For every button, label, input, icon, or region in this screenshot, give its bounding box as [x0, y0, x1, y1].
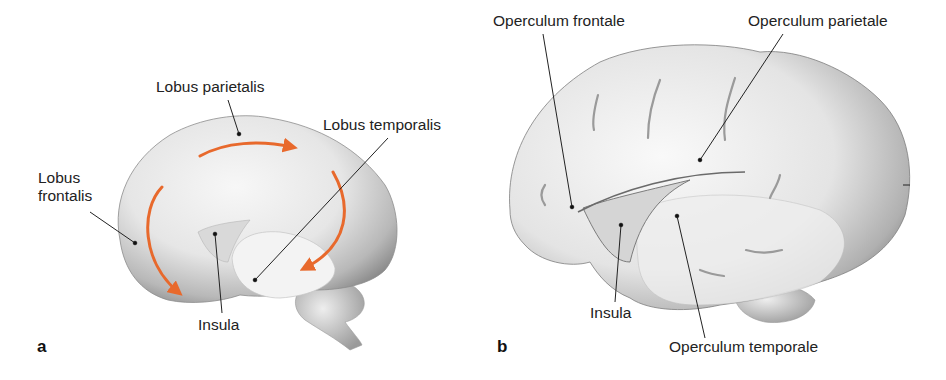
label-operculum-temporale: Operculum temporale — [669, 338, 818, 356]
label-lobus-parietalis: Lobus parietalis — [156, 78, 265, 96]
label-operculum-parietale: Operculum parietale — [748, 12, 888, 30]
label-lobus-temporalis: Lobus temporalis — [323, 116, 441, 134]
label-operculum-frontale: Operculum frontale — [493, 12, 625, 30]
label-insula-a: Insula — [198, 316, 239, 334]
label-insula-b: Insula — [590, 304, 631, 322]
label-lobus-frontalis-line2: frontalis — [38, 187, 92, 205]
brain-illustrations — [0, 0, 946, 380]
label-lobus-frontalis: Lobus frontalis — [38, 169, 92, 205]
panel-letter-b: b — [497, 337, 507, 357]
brain-hemisphere-b — [510, 45, 910, 310]
panel-letter-a: a — [37, 337, 46, 357]
label-lobus-frontalis-line1: Lobus — [38, 169, 92, 187]
